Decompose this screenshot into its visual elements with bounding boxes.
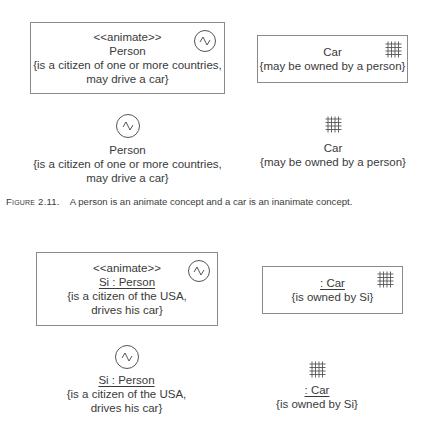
instance-note: {is owned by Si} [252,397,382,411]
person-instance-icon-form: Si : Person {is a citizen of the USA, dr… [24,344,229,415]
concept-name: Car [258,45,407,59]
instance-note: {is a citizen of the USA, [37,289,217,303]
figure-label: Figure 2.11. [6,196,60,207]
person-instance-box: <<animate>> Si : Person {is a citizen of… [36,252,218,326]
concept-name: Car [252,141,414,155]
car-icon-form: Car {may be owned by a person} [252,116,414,169]
concept-note: {may be owned by a person} [252,155,414,169]
stereotype-label: <<animate>> [37,261,217,275]
animate-icon [114,344,140,370]
inanimate-grid-icon [325,116,342,133]
concept-note: {is a citizen of one or more countries, [20,157,235,171]
instance-name: : Car [320,277,345,289]
instance-name: : Car [305,384,330,396]
animate-icon [115,113,141,139]
concept-note: may drive a car} [31,72,224,86]
concept-note: {is a citizen of one or more countries, [31,58,224,72]
concept-note: {may be owned by a person} [258,59,407,73]
person-concept-box: <<animate>> Person {is a citizen of one … [30,22,225,94]
instance-name: Si : Person [98,374,154,386]
figure-caption: Figure 2.11.A person is an animate conce… [6,196,352,207]
concept-name: Person [20,143,235,157]
instance-note: drives his car} [37,303,217,317]
figure-caption-text: A person is an animate concept and a car… [70,196,353,207]
inanimate-grid-icon [309,361,326,378]
instance-note: drives his car} [24,401,229,415]
person-icon-form: Person {is a citizen of one or more coun… [20,113,235,185]
instance-note: {is a citizen of the USA, [24,387,229,401]
stereotype-label: <<animate>> [31,30,224,44]
concept-name: Person [31,44,224,58]
car-instance-icon-form: : Car {is owned by Si} [252,361,382,411]
car-concept-box: Car {may be owned by a person} [257,35,408,83]
instance-name: Si : Person [99,276,155,288]
car-instance-box: : Car {is owned by Si} [262,266,403,314]
concept-note: may drive a car} [20,171,235,185]
instance-note: {is owned by Si} [263,290,402,304]
